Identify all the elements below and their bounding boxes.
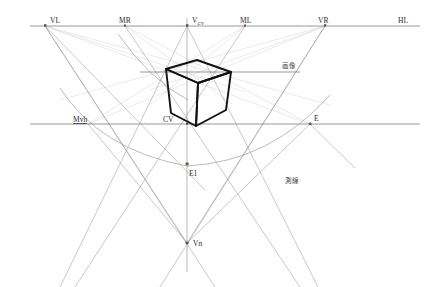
label-sokusen: 測線 <box>285 176 299 185</box>
cube-right-face <box>196 72 231 126</box>
label-ml: ML <box>240 16 252 25</box>
label-mvh: Mvh <box>73 115 87 124</box>
ray-e-diag-down <box>310 124 355 168</box>
marker-vcv <box>186 24 188 26</box>
faint-line-vr-to-cube-topleft <box>150 26 325 90</box>
ray-vcv-to-lower-right <box>187 26 318 287</box>
label-vn: Vn <box>193 239 202 248</box>
ray-mvh-to-vn <box>88 124 187 243</box>
point-markers <box>44 24 326 244</box>
diagram-labels: VL MR VCV ML VR HL Mvh CV E E1 Vn 画像 測線 <box>50 16 408 248</box>
label-mr: MR <box>119 16 131 25</box>
label-hl: HL <box>398 16 408 25</box>
perspective-construction-svg: VL MR VCV ML VR HL Mvh CV E E1 Vn 画像 測線 <box>0 0 435 287</box>
label-vr: VR <box>318 16 328 25</box>
faint-line-vr-to-mvh <box>88 26 325 124</box>
ray-vcv-to-lower-left <box>60 26 187 287</box>
label-e: E <box>314 114 319 123</box>
ray-vl-to-lower-right <box>45 26 215 287</box>
label-vcv: VCV <box>192 16 205 26</box>
ray-ml-to-lower-left <box>75 26 245 287</box>
measuring-arcs <box>60 34 330 166</box>
arc-through-e1-left <box>60 88 187 166</box>
perspective-diagram-canvas: VL MR VCV ML VR HL Mvh CV E E1 Vn 画像 測線 <box>0 0 435 287</box>
marker-vn <box>186 242 189 245</box>
label-cv: CV <box>163 115 174 124</box>
marker-cv <box>186 123 188 125</box>
ray-vl-through-e1 <box>45 26 205 190</box>
faint-construction-lines <box>45 26 330 124</box>
marker-vl <box>44 24 46 26</box>
label-e1: E1 <box>189 169 198 178</box>
label-vl: VL <box>50 16 60 25</box>
label-gazou: 画像 <box>282 61 296 70</box>
marker-e <box>309 123 311 125</box>
label-vcv-sub: CV <box>197 21 204 26</box>
marker-e1 <box>186 163 189 166</box>
